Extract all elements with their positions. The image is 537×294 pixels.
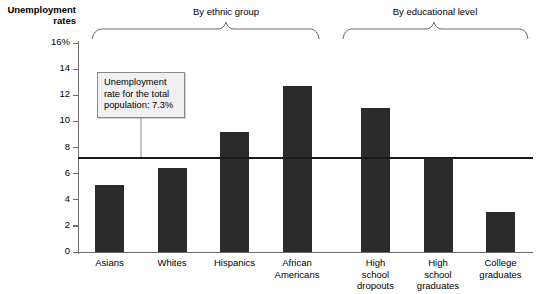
y-tick-mark bbox=[73, 121, 78, 122]
y-tick-mark bbox=[73, 69, 78, 70]
x-tick-label-line-2: Americans bbox=[264, 269, 330, 281]
x-tick-label: Hispanics bbox=[202, 257, 268, 269]
average-reference-line bbox=[78, 157, 533, 159]
callout-line-3: population: 7.3% bbox=[104, 100, 179, 112]
x-tick-label-line-1: Whites bbox=[139, 257, 205, 269]
x-tick-label-line-1: High bbox=[405, 257, 471, 269]
callout-line-1: Unemployment bbox=[104, 77, 179, 89]
bar bbox=[486, 212, 515, 252]
y-axis-title-line-2: rates bbox=[2, 15, 76, 26]
x-tick-label-line-1: Hispanics bbox=[202, 257, 268, 269]
bar bbox=[283, 86, 312, 252]
y-tick-mark bbox=[73, 225, 78, 226]
y-tick-mark bbox=[73, 147, 78, 148]
x-tick-label: AfricanAmericans bbox=[264, 257, 330, 280]
x-tick-label-line-1: High bbox=[343, 257, 409, 269]
y-tick-label: 12 bbox=[30, 88, 70, 99]
y-tick-label: 2 bbox=[30, 219, 70, 230]
bar bbox=[220, 132, 249, 252]
y-axis-title: Unemployment rates bbox=[2, 4, 76, 26]
bar bbox=[95, 185, 124, 252]
bar bbox=[361, 108, 390, 252]
y-tick-label: 6 bbox=[30, 167, 70, 178]
y-tick-mark bbox=[73, 43, 78, 44]
x-tick-label-line-3: graduates bbox=[405, 280, 471, 292]
group-label-education: By educational level bbox=[349, 6, 521, 17]
unemployment-rates-bar-chart: Unemployment rates By ethnic group By ed… bbox=[0, 0, 537, 294]
bar bbox=[158, 168, 187, 252]
y-tick-mark bbox=[73, 95, 78, 96]
x-tick-label-line-3: dropouts bbox=[343, 280, 409, 292]
x-tick-label-line-2: school bbox=[405, 269, 471, 281]
y-tick-label: 8 bbox=[30, 141, 70, 152]
x-tick-label-line-1: College bbox=[468, 257, 534, 269]
y-axis-title-line-1: Unemployment bbox=[2, 4, 76, 15]
x-tick-label: Collegegraduates bbox=[468, 257, 534, 280]
x-tick-label-line-1: African bbox=[264, 257, 330, 269]
y-tick-mark bbox=[73, 252, 78, 253]
callout-line-2: rate for the total bbox=[104, 89, 179, 101]
x-axis-line bbox=[78, 252, 533, 253]
y-tick-label: 0 bbox=[30, 245, 70, 256]
bar bbox=[424, 157, 453, 252]
y-tick-label: 4 bbox=[30, 193, 70, 204]
x-tick-label-line-2: school bbox=[343, 269, 409, 281]
y-tick-label: 14 bbox=[30, 62, 70, 73]
total-population-callout: Unemployment rate for the total populati… bbox=[97, 72, 185, 118]
y-tick-mark bbox=[73, 199, 78, 200]
x-tick-label: Highschooldropouts bbox=[343, 257, 409, 292]
y-tick-label: 16% bbox=[30, 36, 70, 47]
x-tick-label: Highschoolgraduates bbox=[405, 257, 471, 292]
y-tick-label: 10 bbox=[30, 114, 70, 125]
y-tick-mark bbox=[73, 173, 78, 174]
x-tick-label: Asians bbox=[77, 257, 143, 269]
group-label-ethnic: By ethnic group bbox=[140, 6, 312, 17]
x-tick-label: Whites bbox=[139, 257, 205, 269]
x-tick-label-line-1: Asians bbox=[77, 257, 143, 269]
x-tick-label-line-2: graduates bbox=[468, 269, 534, 281]
